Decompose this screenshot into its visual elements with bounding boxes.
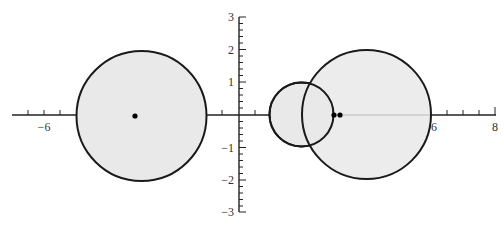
- y-tick-label-neg3: −3: [221, 205, 234, 219]
- y-tick-label-neg1: −1: [221, 141, 234, 155]
- x-tick-label-8: 8: [492, 120, 498, 134]
- y-tick-label-1: 1: [228, 75, 234, 89]
- right-point-b: [337, 112, 342, 117]
- y-tick-label-3: 3: [228, 10, 234, 24]
- y-tick-label-neg2: −2: [221, 173, 234, 187]
- right-point-a: [331, 112, 336, 117]
- left-circle: [77, 51, 207, 181]
- left-point: [132, 113, 137, 118]
- x-tick-label-6: 6: [431, 120, 437, 134]
- y-tick-label-2: 2: [228, 43, 234, 57]
- x-tick-label-neg6: −6: [38, 120, 51, 134]
- large-right-circle: [302, 50, 431, 179]
- circles-diagram: −6 6 8 3 2 1 −1 −2 −3: [0, 0, 504, 227]
